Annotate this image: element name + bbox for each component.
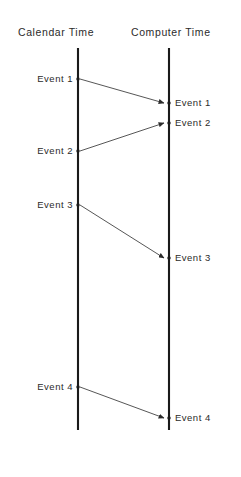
diagram-canvas (0, 0, 241, 477)
mapping-arrow-event-3 (80, 205, 164, 258)
calendar-event-label-3: Event 3 (37, 200, 73, 210)
mapping-arrow-event-4 (80, 387, 164, 418)
computer-event-label-1: Event 1 (175, 98, 211, 108)
mapping-arrow-event-1 (80, 79, 164, 103)
computer-marker-event-1 (167, 101, 170, 104)
computer-marker-event-2 (167, 121, 170, 124)
calendar-event-label-2: Event 2 (37, 146, 73, 156)
mapping-arrows (80, 79, 164, 418)
computer-event-label-2: Event 2 (175, 118, 211, 128)
timeline-mapping-figure: Calendar Time Computer Time (0, 0, 241, 477)
calendar-event-label-4: Event 4 (37, 382, 73, 392)
computer-event-label-3: Event 3 (175, 253, 211, 263)
calendar-marker-event-3 (76, 203, 79, 206)
calendar-marker-event-2 (76, 149, 79, 152)
calendar-event-label-1: Event 1 (37, 74, 73, 84)
computer-event-label-4: Event 4 (175, 413, 211, 423)
computer-marker-event-4 (167, 416, 170, 419)
mapping-arrow-event-2 (80, 123, 164, 151)
calendar-marker-event-4 (76, 385, 79, 388)
computer-marker-event-3 (167, 256, 170, 259)
calendar-marker-event-1 (76, 77, 79, 80)
